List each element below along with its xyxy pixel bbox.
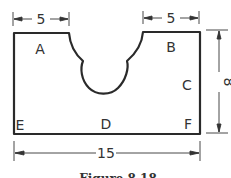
dimension-top-left-label: 5 bbox=[37, 11, 46, 27]
point-label-a: A bbox=[35, 41, 45, 57]
dimension-total-width-label: 15 bbox=[97, 145, 115, 161]
dimension-top-right-label: 5 bbox=[167, 10, 176, 26]
figure-caption: Figure 8.18 bbox=[79, 172, 157, 178]
point-label-f: F bbox=[184, 116, 192, 132]
point-label-e: E bbox=[16, 117, 25, 133]
point-label-d: D bbox=[101, 116, 112, 132]
dimension-height-label: 8 bbox=[221, 78, 231, 87]
diagram-canvas: 5 5 8 15 A B C D E F Figure 8.18 bbox=[0, 0, 231, 178]
point-label-b: B bbox=[166, 39, 176, 55]
point-label-c: C bbox=[182, 77, 192, 93]
